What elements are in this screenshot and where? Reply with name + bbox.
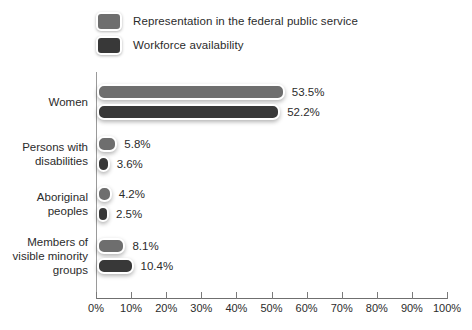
legend-label-representation: Representation in the federal public ser… <box>133 15 358 27</box>
x-axis-tick <box>272 292 273 299</box>
category-label: Members of visible minority groups <box>0 235 88 277</box>
x-axis-tick-label: 100% <box>433 302 461 314</box>
bar-row: 5.8% <box>97 136 151 152</box>
x-axis-tick-label: 20% <box>155 302 177 314</box>
x-axis-tick-label: 90% <box>401 302 423 314</box>
bar-row: 2.5% <box>97 206 142 222</box>
bar-value-label: 3.6% <box>117 158 143 170</box>
legend-item: Workforce availability <box>96 34 436 56</box>
x-axis-tick <box>236 292 237 299</box>
chart-legend: Representation in the federal public ser… <box>96 10 436 58</box>
bar-row: 8.1% <box>97 238 159 254</box>
x-axis-tick <box>307 292 308 299</box>
bar-value-label: 53.5% <box>292 86 325 98</box>
x-axis-tick-label: 70% <box>331 302 353 314</box>
x-axis-tick <box>201 292 202 299</box>
x-axis-tick <box>342 292 343 299</box>
bar-value-label: 8.1% <box>132 240 158 252</box>
x-axis-tick <box>166 292 167 299</box>
bar[interactable] <box>97 186 112 202</box>
category-label: Women <box>0 95 88 109</box>
bar-row: 3.6% <box>97 156 143 172</box>
category-label: Aboriginal peoples <box>0 190 88 218</box>
bar-value-label: 5.8% <box>124 138 150 150</box>
x-axis-tick <box>377 292 378 299</box>
bar[interactable] <box>97 156 110 172</box>
bar[interactable] <box>97 104 280 120</box>
bar-row: 4.2% <box>97 186 145 202</box>
bar[interactable] <box>97 258 134 274</box>
legend-label-workforce: Workforce availability <box>133 39 244 51</box>
bar[interactable] <box>97 84 285 100</box>
bar[interactable] <box>97 206 109 222</box>
legend-swatch-workforce <box>96 36 122 55</box>
bar-row: 10.4% <box>97 258 173 274</box>
x-axis-tick-label: 50% <box>260 302 282 314</box>
x-axis-tick-label: 40% <box>225 302 247 314</box>
bar-value-label: 4.2% <box>119 188 145 200</box>
x-axis-tick <box>447 292 448 299</box>
bar[interactable] <box>97 136 117 152</box>
x-axis-tick-label: 10% <box>120 302 142 314</box>
legend-item: Representation in the federal public ser… <box>96 10 436 32</box>
bar[interactable] <box>97 238 125 254</box>
x-axis-tick <box>96 292 97 299</box>
x-axis-tick-label: 30% <box>190 302 212 314</box>
legend-swatch-representation <box>96 12 122 31</box>
bar-row: 52.2% <box>97 104 320 120</box>
x-axis-tick <box>412 292 413 299</box>
bar-row: 53.5% <box>97 84 324 100</box>
bar-value-label: 52.2% <box>287 106 320 118</box>
x-axis-tick-label: 0% <box>88 302 104 314</box>
x-axis-tick-label: 60% <box>296 302 318 314</box>
category-label: Persons with disabilities <box>0 140 88 168</box>
bar-value-label: 2.5% <box>116 208 142 220</box>
x-axis-tick <box>131 292 132 299</box>
x-axis-tick-label: 80% <box>366 302 388 314</box>
chart-plot-area: 0%10%20%30%40%50%60%70%80%90%100% Women5… <box>0 66 472 330</box>
bar-value-label: 10.4% <box>141 260 174 272</box>
